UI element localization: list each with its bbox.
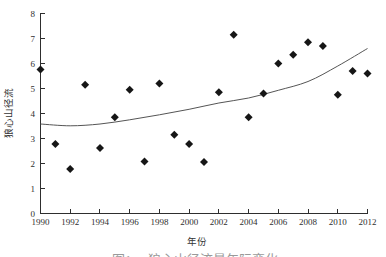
data-points: [37, 31, 372, 173]
x-tick-label: 2004: [240, 217, 259, 227]
y-tick-label: 7: [31, 34, 36, 44]
x-axis-label: 年份: [187, 236, 207, 247]
y-tick-label: 2: [31, 159, 36, 169]
x-tick-label: 1996: [121, 217, 140, 227]
data-point-1996: [126, 86, 134, 94]
x-tick-label: 1990: [32, 217, 51, 227]
figure-caption: 图1 狼心山径流量年际变化: [0, 249, 386, 257]
x-tick-label: 2000: [180, 217, 199, 227]
y-tick-label: 6: [31, 59, 36, 69]
data-point-2012: [364, 70, 372, 78]
y-tick-label: 3: [31, 134, 36, 144]
tick-labels: 0123456781990199219941996199820002002200…: [31, 9, 377, 227]
data-point-2003: [230, 31, 238, 39]
data-point-1998: [155, 80, 163, 88]
data-point-2001: [200, 158, 208, 166]
chart-figure: 0123456781990199219941996199820002002200…: [0, 0, 386, 257]
data-point-2006: [274, 60, 282, 68]
data-point-1995: [111, 113, 119, 121]
data-point-2005: [260, 90, 268, 98]
data-point-1994: [96, 144, 104, 152]
x-tick-label: 2002: [210, 217, 228, 227]
fitted-curve: [41, 49, 368, 126]
x-tick-label: 2010: [329, 217, 348, 227]
x-tick-label: 2006: [269, 217, 288, 227]
data-point-1992: [66, 165, 74, 173]
data-point-2000: [185, 140, 193, 148]
data-point-1990: [37, 66, 45, 74]
x-tick-label: 1992: [61, 217, 79, 227]
y-tick-label: 5: [31, 84, 36, 94]
axes: [41, 13, 368, 214]
data-point-2011: [349, 67, 357, 75]
data-point-2007: [289, 51, 297, 59]
axis-lines: [41, 13, 368, 214]
y-tick-label: 1: [31, 184, 36, 194]
data-point-1991: [51, 140, 59, 148]
x-tick-label: 1998: [150, 217, 169, 227]
data-point-2009: [319, 42, 327, 50]
data-point-2010: [334, 91, 342, 99]
y-tick-label: 8: [31, 9, 36, 19]
data-point-1999: [170, 131, 178, 139]
axis-ticks: [41, 14, 368, 214]
x-tick-label: 2008: [299, 217, 318, 227]
caption-title: 狼心山径流量年际变化: [148, 249, 278, 257]
scatter-plot: 0123456781990199219941996199820002002200…: [0, 0, 386, 257]
data-point-1993: [81, 81, 89, 89]
trend-line: [41, 49, 368, 126]
y-axis-label: 狼心山径流: [3, 88, 14, 138]
caption-number: 图1: [112, 249, 132, 257]
x-tick-label: 1994: [91, 217, 110, 227]
data-point-1997: [141, 158, 149, 166]
data-point-2004: [245, 113, 253, 121]
data-point-2008: [304, 38, 312, 46]
y-tick-label: 4: [31, 109, 36, 119]
x-tick-label: 2012: [359, 217, 377, 227]
data-point-2002: [215, 88, 223, 96]
